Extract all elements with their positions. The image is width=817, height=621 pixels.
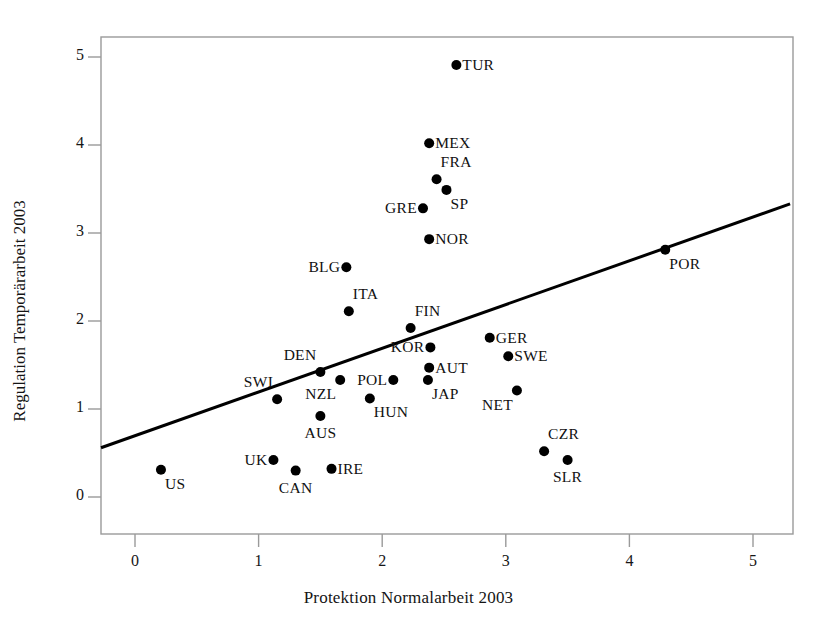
data-point-label: SP [450, 195, 468, 213]
data-point-label: BLG [308, 258, 340, 276]
data-point-label: NET [482, 396, 513, 414]
x-tick-label: 1 [244, 552, 274, 570]
data-point-label: SLR [553, 468, 582, 486]
data-point-marker [406, 323, 416, 333]
y-tick-label: 4 [54, 134, 84, 152]
data-point-label: POR [669, 255, 700, 273]
data-point-marker [432, 174, 442, 184]
data-point-marker [512, 386, 522, 396]
data-point-label: CAN [279, 479, 313, 497]
data-point-marker [365, 393, 375, 403]
data-point-marker [268, 455, 278, 465]
data-point-marker [272, 394, 282, 404]
data-point-label: SWE [514, 347, 548, 365]
data-point-marker [660, 245, 670, 255]
data-point-marker [485, 333, 495, 343]
y-tick-label: 5 [54, 46, 84, 64]
data-point-label: NOR [435, 230, 469, 248]
data-point-marker [327, 464, 337, 474]
plot-canvas [0, 0, 817, 621]
x-tick-label: 2 [367, 552, 397, 570]
x-tick-label: 0 [120, 552, 150, 570]
data-point-label: SWI [244, 373, 273, 391]
data-point-marker [424, 138, 434, 148]
data-point-marker [451, 60, 461, 70]
data-point-marker [424, 363, 434, 373]
x-axis-title: Protektion Normalarbeit 2003 [0, 588, 817, 608]
data-point-label: US [165, 475, 185, 493]
data-point-marker [335, 375, 345, 385]
data-point-label: IRE [338, 460, 364, 478]
data-point-marker [418, 203, 428, 213]
data-point-label: GER [496, 329, 528, 347]
data-point-marker [344, 306, 354, 316]
data-point-label: TUR [462, 56, 494, 74]
data-point-marker [315, 367, 325, 377]
data-point-label: DEN [284, 346, 317, 364]
data-point-marker [441, 185, 451, 195]
data-point-label: FIN [415, 302, 441, 320]
y-axis-title-text: Regulation Temporärarbeit 2003 [10, 200, 30, 421]
data-point-label: MEX [435, 134, 470, 152]
data-point-label: AUS [304, 424, 336, 442]
scatter-plot-figure: Regulation Temporärarbeit 2003 Protektio… [0, 0, 817, 621]
y-tick-label: 1 [54, 398, 84, 416]
y-tick-label: 2 [54, 310, 84, 328]
data-point-label: JAP [432, 385, 459, 403]
x-tick-label: 4 [614, 552, 644, 570]
data-point-marker [424, 234, 434, 244]
data-point-marker [563, 455, 573, 465]
data-point-marker [539, 446, 549, 456]
data-point-marker [341, 262, 351, 272]
data-point-label: POL [357, 371, 387, 389]
data-point-marker [388, 375, 398, 385]
x-tick-label: 5 [738, 552, 768, 570]
data-point-label: KOR [391, 338, 425, 356]
data-point-label: NZL [305, 385, 336, 403]
data-point-label: FRA [441, 153, 472, 171]
data-point-label: ITA [353, 285, 378, 303]
y-tick-label: 0 [54, 486, 84, 504]
data-point-label: GRE [385, 199, 417, 217]
data-point-marker [315, 411, 325, 421]
data-point-label: HUN [374, 403, 408, 421]
data-point-marker [503, 351, 513, 361]
data-point-label: UK [244, 451, 267, 469]
x-tick-label: 3 [491, 552, 521, 570]
data-point-marker [423, 375, 433, 385]
plot-frame [101, 37, 793, 534]
data-points [156, 60, 670, 476]
data-point-marker [291, 466, 301, 476]
data-point-marker [156, 465, 166, 475]
y-tick-label: 3 [54, 222, 84, 240]
data-point-marker [425, 342, 435, 352]
data-point-label: CZR [548, 425, 579, 443]
data-point-label: AUT [435, 359, 468, 377]
